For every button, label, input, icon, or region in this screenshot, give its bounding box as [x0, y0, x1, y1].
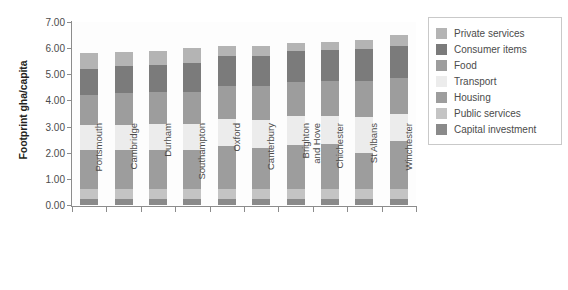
y-axis-tick-mark — [67, 153, 72, 154]
bar-segment — [115, 52, 133, 66]
x-axis-category-label: Chichester — [335, 123, 346, 213]
y-axis-tick-mark — [67, 127, 72, 128]
legend-item-label: Food — [454, 60, 477, 71]
bar-segment — [115, 93, 133, 125]
bar-segment — [183, 48, 201, 63]
bar-segment — [149, 51, 167, 65]
bar-segment — [183, 92, 201, 124]
x-axis-category-label: Brighton and Hove — [301, 123, 322, 213]
legend-item: Housing — [436, 89, 556, 105]
bar-segment — [149, 92, 167, 124]
legend-item-label: Transport — [454, 76, 496, 87]
legend-item-label: Public services — [454, 108, 521, 119]
bar-segment — [321, 50, 339, 81]
stacked-bar-chart: Footprint gha/capita 0.001.002.003.004.0… — [0, 0, 568, 290]
y-axis-tick-label: 0.00 — [25, 200, 65, 211]
x-axis-tick-mark — [244, 207, 245, 212]
x-axis-category-label: Canterbury — [266, 123, 277, 213]
plot-area — [72, 22, 416, 205]
bar-segment — [218, 56, 236, 86]
legend-color-swatch — [436, 44, 447, 55]
y-axis-tick-mark — [67, 48, 72, 49]
bar-segment — [287, 82, 305, 116]
y-axis-tick-mark — [67, 179, 72, 180]
x-axis-category-label: Portsmouth — [94, 123, 105, 213]
bar-segment — [115, 66, 133, 93]
bar-segment — [80, 53, 98, 69]
y-axis-tick-label: 2.00 — [25, 147, 65, 158]
bar-segment — [287, 51, 305, 82]
y-axis-tick-mark — [67, 205, 72, 206]
bar-segment — [252, 86, 270, 119]
y-axis-tick-label: 7.00 — [25, 17, 65, 28]
x-axis-category-label: Winchester — [404, 123, 415, 213]
legend-color-swatch — [436, 76, 447, 87]
x-axis-tick-mark — [106, 207, 107, 212]
chart-legend: Private servicesConsumer itemsFoodTransp… — [428, 17, 562, 145]
x-axis-category-label: St Albans — [369, 123, 380, 213]
bar-segment — [252, 46, 270, 56]
x-axis-tick-mark — [175, 207, 176, 212]
bar-segment — [80, 95, 98, 125]
y-axis-tick-label: 4.00 — [25, 95, 65, 106]
x-axis-tick-mark — [382, 207, 383, 212]
y-axis-tick-label: 3.00 — [25, 121, 65, 132]
bar-segment — [149, 65, 167, 92]
bar-segment — [355, 40, 373, 49]
bar-segment — [218, 46, 236, 56]
bar-segment — [390, 78, 408, 113]
y-axis-tick-label: 5.00 — [25, 69, 65, 80]
legend-item-label: Private services — [454, 28, 525, 39]
x-axis-tick-mark — [72, 207, 73, 212]
bar-segment — [390, 46, 408, 79]
bar-segment — [355, 81, 373, 118]
legend-item: Food — [436, 57, 556, 73]
bar-segment — [218, 86, 236, 119]
legend-color-swatch — [436, 92, 447, 103]
legend-color-swatch — [436, 60, 447, 71]
y-axis-tick-label: 6.00 — [25, 43, 65, 54]
y-axis-tick-labels: 0.001.002.003.004.005.006.007.00 — [20, 0, 65, 290]
bar-segment — [321, 42, 339, 50]
legend-item: Transport — [436, 73, 556, 89]
legend-item-label: Housing — [454, 92, 491, 103]
x-axis-tick-mark — [347, 207, 348, 212]
x-axis-tick-mark — [210, 207, 211, 212]
y-axis-tick-mark — [67, 22, 72, 23]
y-axis-tick-mark — [67, 74, 72, 75]
x-axis-tick-mark — [278, 207, 279, 212]
x-axis-category-label: Oxford — [232, 123, 243, 213]
legend-item: Public services — [436, 105, 556, 121]
legend-item: Private services — [436, 25, 556, 41]
y-axis-tick-label: 1.00 — [25, 173, 65, 184]
legend-item: Consumer items — [436, 41, 556, 57]
x-axis-category-label: Southampton — [197, 123, 208, 213]
x-axis-tick-mark — [416, 207, 417, 212]
legend-color-swatch — [436, 124, 447, 135]
bar-segment — [321, 81, 339, 116]
x-axis-category-label: Durham — [163, 123, 174, 213]
legend-item: Capital investment — [436, 121, 556, 137]
legend-color-swatch — [436, 28, 447, 39]
bar-segment — [390, 35, 408, 45]
legend-item-label: Consumer items — [454, 44, 527, 55]
legend-color-swatch — [436, 108, 447, 119]
bar-segment — [287, 43, 305, 51]
x-axis-tick-mark — [141, 207, 142, 212]
bar-segment — [183, 63, 201, 92]
x-axis-category-label: Cambridge — [129, 123, 140, 213]
bar-segment — [252, 56, 270, 86]
legend-item-label: Capital investment — [454, 124, 536, 135]
bar-segment — [80, 69, 98, 95]
y-axis-tick-mark — [67, 100, 72, 101]
bar-segment — [355, 49, 373, 80]
